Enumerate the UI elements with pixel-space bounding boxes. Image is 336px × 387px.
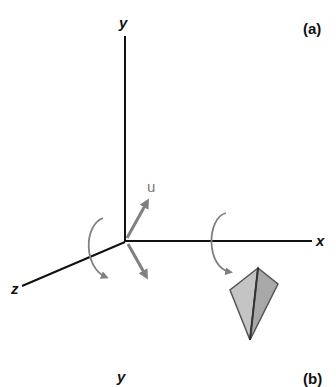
kite-object-icon — [230, 268, 278, 340]
panel-b-label: (b) — [303, 370, 322, 387]
x-axis-label: x — [316, 232, 324, 249]
z-axis-label: z — [11, 280, 19, 297]
down-vector — [128, 244, 146, 276]
rotation-arrow-x-icon — [211, 213, 230, 272]
z-axis — [22, 242, 125, 286]
vector-u-label: u — [147, 178, 155, 195]
y-axis-label: y — [119, 14, 127, 31]
panel-b-y-axis-label: y — [117, 368, 125, 385]
rotation-arrow-z-icon — [89, 218, 106, 277]
u-vector — [127, 202, 147, 238]
panel-a-label: (a) — [303, 20, 321, 37]
